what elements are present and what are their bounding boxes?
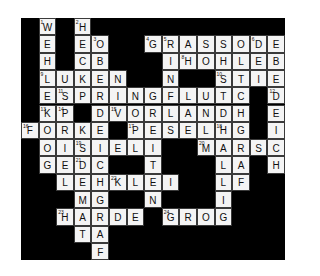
crossword-cell[interactable]: 24G bbox=[162, 208, 180, 225]
crossword-cell[interactable]: I bbox=[56, 139, 74, 156]
crossword-cell[interactable]: C bbox=[91, 156, 109, 173]
crossword-cell[interactable]: E bbox=[109, 139, 127, 156]
crossword-cell[interactable]: G bbox=[39, 156, 57, 173]
crossword-cell[interactable]: I bbox=[91, 139, 109, 156]
crossword-cell[interactable]: N bbox=[162, 70, 180, 87]
crossword-cell[interactable]: E bbox=[127, 208, 145, 225]
crossword-cell[interactable]: G bbox=[232, 122, 250, 139]
crossword-cell[interactable]: 10S bbox=[215, 70, 233, 87]
crossword-cell[interactable]: O bbox=[197, 208, 215, 225]
crossword-cell[interactable]: S bbox=[162, 122, 180, 139]
crossword-cell[interactable]: R bbox=[56, 122, 74, 139]
crossword-cell[interactable]: 16F bbox=[21, 122, 39, 139]
crossword-cell[interactable]: E bbox=[144, 174, 162, 191]
crossword-cell[interactable]: E bbox=[39, 35, 57, 52]
crossword-cell[interactable]: 5R bbox=[162, 35, 180, 52]
crossword-cell[interactable]: I bbox=[162, 174, 180, 191]
crossword-cell[interactable]: F bbox=[162, 87, 180, 104]
crossword-cell[interactable]: H bbox=[39, 53, 57, 70]
crossword-cell[interactable]: O bbox=[39, 122, 57, 139]
crossword-cell[interactable]: 2H bbox=[74, 18, 92, 35]
crossword-cell[interactable]: L bbox=[179, 87, 197, 104]
crossword-cell[interactable]: 8H bbox=[179, 53, 197, 70]
crossword-cell[interactable]: 19S bbox=[74, 139, 92, 156]
crossword-cell[interactable]: O bbox=[232, 35, 250, 52]
crossword-cell[interactable]: I bbox=[144, 139, 162, 156]
crossword-cell[interactable]: U bbox=[197, 87, 215, 104]
crossword-cell[interactable]: I bbox=[250, 70, 268, 87]
crossword-cell[interactable]: 14P bbox=[56, 105, 74, 122]
crossword-cell[interactable]: L bbox=[127, 139, 145, 156]
crossword-cell[interactable]: B bbox=[91, 53, 109, 70]
crossword-cell[interactable]: T bbox=[215, 87, 233, 104]
crossword-cell[interactable]: 1W bbox=[39, 18, 57, 35]
crossword-cell[interactable]: E bbox=[144, 122, 162, 139]
crossword-cell[interactable]: L bbox=[197, 122, 215, 139]
crossword-cell[interactable]: A bbox=[232, 156, 250, 173]
crossword-cell[interactable]: H bbox=[91, 174, 109, 191]
crossword-cell[interactable]: O bbox=[39, 139, 57, 156]
crossword-cell[interactable]: C bbox=[74, 53, 92, 70]
crossword-cell[interactable]: 4G bbox=[144, 35, 162, 52]
crossword-cell[interactable]: L bbox=[56, 174, 74, 191]
crossword-cell[interactable]: 15V bbox=[109, 105, 127, 122]
crossword-cell[interactable]: N bbox=[144, 191, 162, 208]
crossword-cell[interactable]: C bbox=[232, 87, 250, 104]
crossword-cell[interactable]: R bbox=[144, 105, 162, 122]
crossword-cell[interactable]: T bbox=[232, 70, 250, 87]
crossword-cell[interactable]: 22K bbox=[109, 174, 127, 191]
crossword-cell[interactable]: E bbox=[250, 53, 268, 70]
crossword-cell[interactable]: N bbox=[197, 105, 215, 122]
crossword-cell[interactable]: D bbox=[215, 105, 233, 122]
crossword-cell[interactable]: 9L bbox=[39, 70, 57, 87]
crossword-cell[interactable]: L bbox=[162, 105, 180, 122]
crossword-cell[interactable]: T bbox=[74, 226, 92, 243]
crossword-cell[interactable]: 23H bbox=[56, 208, 74, 225]
crossword-cell[interactable]: L bbox=[232, 53, 250, 70]
crossword-cell[interactable]: E bbox=[179, 122, 197, 139]
crossword-cell[interactable]: L bbox=[215, 156, 233, 173]
crossword-cell[interactable]: 11S bbox=[56, 87, 74, 104]
crossword-cell[interactable]: N bbox=[127, 87, 145, 104]
crossword-cell[interactable]: 18H bbox=[215, 122, 233, 139]
crossword-cell[interactable]: O bbox=[197, 53, 215, 70]
crossword-cell[interactable]: E bbox=[74, 174, 92, 191]
crossword-cell[interactable]: K bbox=[74, 122, 92, 139]
crossword-cell[interactable]: H bbox=[267, 156, 285, 173]
crossword-cell[interactable]: P bbox=[74, 87, 92, 104]
crossword-cell[interactable]: R bbox=[91, 208, 109, 225]
crossword-cell[interactable]: I bbox=[267, 122, 285, 139]
crossword-cell[interactable]: R bbox=[91, 87, 109, 104]
crossword-cell[interactable]: E bbox=[267, 105, 285, 122]
crossword-cell[interactable]: I bbox=[109, 87, 127, 104]
crossword-cell[interactable]: M bbox=[74, 191, 92, 208]
crossword-cell[interactable]: G bbox=[144, 87, 162, 104]
crossword-cell[interactable]: 13K bbox=[39, 105, 57, 122]
crossword-cell[interactable]: A bbox=[179, 105, 197, 122]
crossword-cell[interactable]: A bbox=[74, 208, 92, 225]
crossword-cell[interactable]: O bbox=[127, 105, 145, 122]
crossword-cell[interactable]: I bbox=[162, 53, 180, 70]
crossword-cell[interactable]: E bbox=[91, 122, 109, 139]
crossword-cell[interactable]: E bbox=[91, 70, 109, 87]
crossword-cell[interactable]: F bbox=[232, 174, 250, 191]
crossword-cell[interactable]: E bbox=[56, 156, 74, 173]
crossword-cell[interactable]: R bbox=[232, 139, 250, 156]
crossword-cell[interactable]: 3O bbox=[91, 35, 109, 52]
crossword-cell[interactable]: 12D bbox=[267, 87, 285, 104]
crossword-cell[interactable]: E bbox=[39, 87, 57, 104]
crossword-cell[interactable]: S bbox=[197, 35, 215, 52]
crossword-cell[interactable]: L bbox=[127, 174, 145, 191]
crossword-cell[interactable]: 21D bbox=[74, 156, 92, 173]
crossword-cell[interactable]: S bbox=[250, 139, 268, 156]
crossword-cell[interactable]: A bbox=[91, 226, 109, 243]
crossword-cell[interactable]: U bbox=[56, 70, 74, 87]
crossword-cell[interactable]: G bbox=[91, 191, 109, 208]
crossword-cell[interactable]: C bbox=[267, 139, 285, 156]
crossword-cell[interactable]: 20M bbox=[197, 139, 215, 156]
crossword-cell[interactable]: 6D bbox=[250, 35, 268, 52]
crossword-cell[interactable]: D bbox=[109, 208, 127, 225]
crossword-cell[interactable]: 17P bbox=[127, 122, 145, 139]
crossword-cell[interactable]: B bbox=[267, 53, 285, 70]
crossword-cell[interactable]: I bbox=[215, 191, 233, 208]
